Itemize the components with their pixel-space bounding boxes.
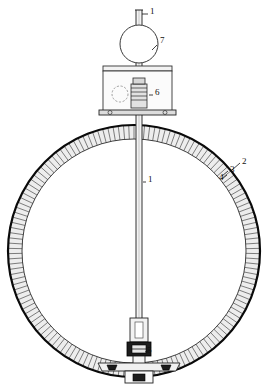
callout-4: 4 <box>219 172 224 182</box>
base-sleeve-bore <box>135 322 143 338</box>
callout-1-center: 1 <box>148 174 153 184</box>
bushing-collar <box>133 78 145 84</box>
pedestal-core <box>133 374 145 381</box>
beam-bolt-left <box>107 365 117 370</box>
callout-5: 5 <box>147 345 152 355</box>
housing-top-lip <box>103 66 172 71</box>
callout-2: 2 <box>242 156 247 166</box>
callout-6: 6 <box>155 87 160 97</box>
callout-3: 3 <box>230 164 235 174</box>
callout-1-top: 1 <box>150 6 155 16</box>
beam-bolt-right <box>161 365 171 370</box>
housing-enclosure-group <box>99 66 176 115</box>
spherical-weight <box>120 25 158 63</box>
callout-7: 7 <box>160 35 165 45</box>
technical-drawing-figure: 17623415 <box>0 0 268 387</box>
spherical-weight-group <box>120 25 158 63</box>
